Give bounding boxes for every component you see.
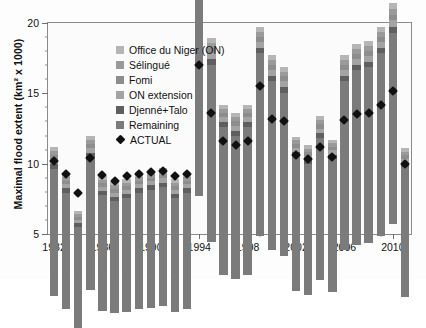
bar-segment <box>364 46 372 51</box>
bar-segment <box>159 187 167 307</box>
bar-segment <box>328 140 336 144</box>
bar-segment <box>122 198 130 312</box>
bar-column[interactable] <box>256 25 264 234</box>
bar-column[interactable] <box>352 34 360 234</box>
bar-segment <box>86 158 94 290</box>
y-minor-tick <box>45 107 48 108</box>
legend-item[interactable]: ON extension <box>116 88 225 102</box>
bar-segment <box>74 211 82 214</box>
bar-segment <box>122 183 130 187</box>
bar-segment <box>110 193 118 197</box>
bar-segment <box>352 70 360 244</box>
bar-segment <box>292 144 300 148</box>
bar-segment <box>74 220 82 224</box>
bar-column[interactable] <box>389 13 397 234</box>
legend-swatch-icon <box>116 121 124 129</box>
bar-segment <box>340 55 348 60</box>
legend-item[interactable]: Fomi <box>116 73 225 87</box>
bar-column[interactable] <box>377 25 385 234</box>
bar-column[interactable] <box>74 117 82 234</box>
y-minor-tick <box>45 177 48 178</box>
bar-segment <box>183 188 191 192</box>
bar-segment <box>292 140 300 144</box>
bar-segment <box>62 181 70 185</box>
legend-swatch-icon <box>116 61 124 69</box>
bar-segment <box>62 184 70 188</box>
y-tick-label: 20 <box>27 17 39 29</box>
bar-segment <box>110 189 118 193</box>
bar-segment <box>280 72 288 77</box>
bar-segment <box>62 193 70 310</box>
legend-label: ACTUAL <box>130 135 171 146</box>
bar-segment <box>401 152 409 156</box>
bar-segment <box>256 27 264 32</box>
bar-segment <box>110 197 118 201</box>
bar-segment <box>74 214 82 217</box>
bar-column[interactable] <box>268 39 276 234</box>
legend-item[interactable]: Djenné+Talo <box>116 103 225 117</box>
bar-segment <box>147 185 155 189</box>
bar-segment <box>171 198 179 312</box>
bar-segment <box>147 178 155 182</box>
bar-column[interactable] <box>340 39 348 234</box>
y-axis-title: Maximal flood extent (km² x 1000) <box>12 14 24 234</box>
bar-segment <box>183 184 191 188</box>
bar-segment <box>316 133 324 138</box>
bar-segment <box>147 181 155 185</box>
bar-segment <box>98 191 106 195</box>
bar-segment <box>316 138 324 280</box>
y-minor-tick <box>45 51 48 52</box>
bar-column[interactable] <box>231 68 239 234</box>
bar-segment <box>316 129 324 134</box>
legend-label: Office du Niger (ON) <box>129 45 225 56</box>
bar-column[interactable] <box>243 64 251 234</box>
bar-column[interactable] <box>98 100 106 234</box>
legend-item[interactable]: ACTUAL <box>116 133 225 147</box>
bar-segment <box>316 116 324 120</box>
bar-segment <box>135 184 143 188</box>
bar-column[interactable] <box>364 32 372 234</box>
bar-segment <box>364 51 372 56</box>
bar-segment <box>243 127 251 275</box>
y-minor-tick <box>45 79 48 80</box>
bar-segment <box>231 126 239 131</box>
y-minor-tick <box>45 219 48 220</box>
bar-segment <box>171 183 179 187</box>
bar-segment <box>377 32 385 37</box>
bar-segment <box>292 137 300 141</box>
bar-segment <box>86 136 94 140</box>
bar-segment <box>98 180 106 184</box>
legend-item[interactable]: Sélingué <box>116 58 225 72</box>
bar-segment <box>352 65 360 71</box>
x-tick-mark <box>393 234 394 239</box>
y-minor-tick <box>45 205 48 206</box>
bar-segment <box>401 167 409 296</box>
y-minor-tick <box>45 191 48 192</box>
bar-segment <box>340 81 348 250</box>
bar-column[interactable] <box>280 45 288 234</box>
bar-segment <box>74 223 82 227</box>
bar-segment <box>268 76 276 82</box>
bar-segment <box>243 122 251 127</box>
bar-column[interactable] <box>62 98 70 234</box>
plot-area: 5101520 19821986199019941998200220062010… <box>47 22 412 235</box>
legend-label: Sélingué <box>129 60 170 71</box>
legend-item[interactable]: Office du Niger (ON) <box>116 43 225 57</box>
y-minor-tick <box>45 37 48 38</box>
legend: Office du Niger (ON)SélinguéFomiON exten… <box>116 43 225 147</box>
y-tick-mark <box>42 164 48 165</box>
bar-segment <box>340 60 348 65</box>
bar-segment <box>74 227 82 328</box>
bar-segment <box>304 149 312 153</box>
bar-segment <box>98 187 106 191</box>
bar-segment <box>122 194 130 198</box>
bar-segment <box>304 164 312 295</box>
bar-segment <box>389 15 397 21</box>
bar-segment <box>135 188 143 192</box>
bar-segment <box>377 42 385 48</box>
y-minor-tick <box>45 135 48 136</box>
bar-segment <box>135 181 143 185</box>
bar-segment <box>231 136 239 279</box>
bar-segment <box>159 183 167 187</box>
legend-item[interactable]: Remaining <box>116 118 225 132</box>
